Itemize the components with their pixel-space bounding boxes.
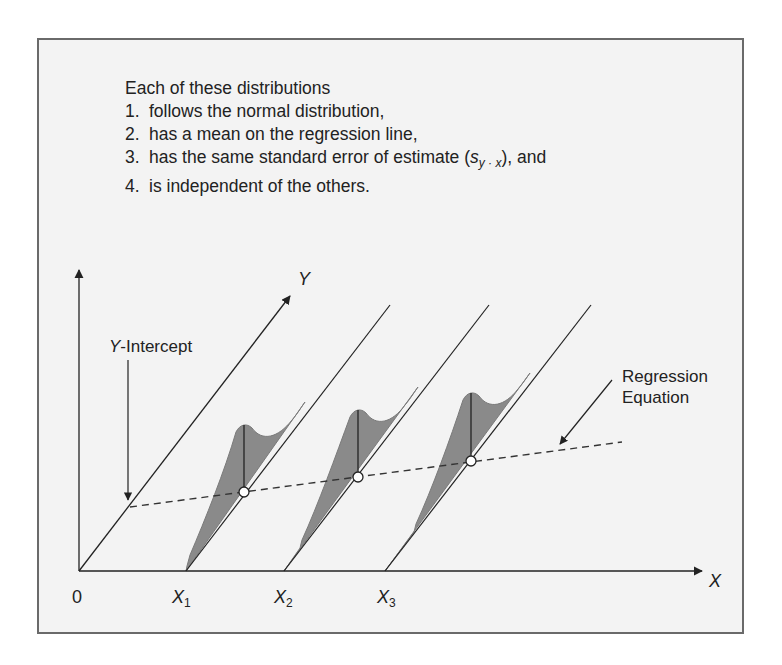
mean-point-x2 xyxy=(353,472,363,482)
x2-main: X xyxy=(273,587,287,607)
mean-point-x1 xyxy=(239,487,249,497)
regression-label-line2: Equation xyxy=(622,388,689,407)
x2-label: X2 xyxy=(273,587,293,610)
x2-sub: 2 xyxy=(286,596,293,610)
y-intercept-label: Y-Intercept xyxy=(109,337,192,356)
x1-label: X1 xyxy=(171,587,191,610)
x3-sub: 3 xyxy=(389,596,396,610)
origin-label: 0 xyxy=(72,587,82,607)
x1-main: X xyxy=(171,587,185,607)
x3-main: X xyxy=(376,587,390,607)
regression-diagram: Y X 0 Y-Intercept Regression Equation X1… xyxy=(0,0,782,665)
x-axis-label: X xyxy=(708,571,722,591)
regression-arrow-icon xyxy=(560,380,612,444)
x3-label: X3 xyxy=(376,587,396,610)
diagonal-x3 xyxy=(385,305,591,571)
y-intercept-text: -Intercept xyxy=(120,337,192,356)
regression-label-line1: Regression xyxy=(622,367,708,386)
y-diagonal-label: Y xyxy=(298,269,312,289)
x1-sub: 1 xyxy=(184,596,191,610)
mean-point-x3 xyxy=(466,456,476,466)
distribution-x2 xyxy=(284,387,418,571)
